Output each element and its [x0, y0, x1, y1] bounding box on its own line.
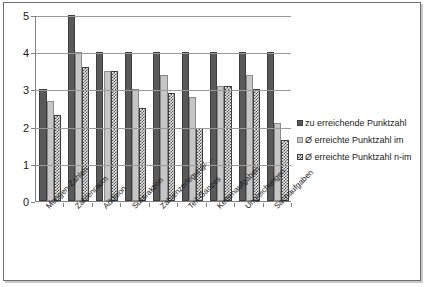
y-tick-label: 4	[23, 48, 29, 59]
bar	[39, 89, 46, 201]
bar	[139, 108, 146, 201]
legend-swatch-icon	[297, 154, 303, 160]
legend-swatch-icon	[297, 120, 303, 126]
y-tick-label: 2	[23, 122, 29, 133]
legend-label: Ø erreichte Punktzahl n-im	[305, 153, 412, 162]
legend-item: Ø erreichte Punktzahl im	[297, 135, 423, 145]
x-tick-mark	[291, 203, 292, 207]
gridline	[36, 16, 291, 17]
y-tick-mark	[31, 16, 35, 17]
chart-legend: zu erreichende PunktzahlØ erreichte Punk…	[297, 118, 423, 169]
legend-label: Ø erreichte Punktzahl im	[305, 136, 404, 145]
bar	[82, 67, 89, 201]
gridline	[36, 53, 291, 54]
bar	[125, 52, 132, 201]
y-tick-mark	[31, 53, 35, 54]
y-tick-mark	[31, 165, 35, 166]
bar	[132, 89, 139, 201]
bar	[224, 86, 231, 201]
bar	[253, 89, 260, 201]
legend-label: zu erreichende Punktzahl	[305, 119, 407, 128]
legend-item: Ø erreichte Punktzahl n-im	[297, 152, 423, 162]
gridline	[36, 128, 291, 129]
y-tick-label: 0	[23, 197, 29, 208]
gridline	[36, 90, 291, 91]
y-tick-mark	[31, 128, 35, 129]
legend-swatch-icon	[297, 137, 303, 143]
y-tick-label: 3	[23, 85, 29, 96]
y-tick-label: 5	[23, 11, 29, 22]
bar	[168, 93, 175, 201]
bar	[274, 123, 281, 201]
x-axis-labels: Mengen-ZahlenZahlenraumAdditionSubtrakti…	[35, 203, 291, 283]
bar	[47, 101, 54, 201]
chart-screenshot: 012345 Mengen-ZahlenZahlenraumAdditionSu…	[0, 0, 427, 287]
y-tick-mark	[31, 90, 35, 91]
legend-item: zu erreichende Punktzahl	[297, 118, 423, 128]
y-tick-label: 1	[23, 159, 29, 170]
